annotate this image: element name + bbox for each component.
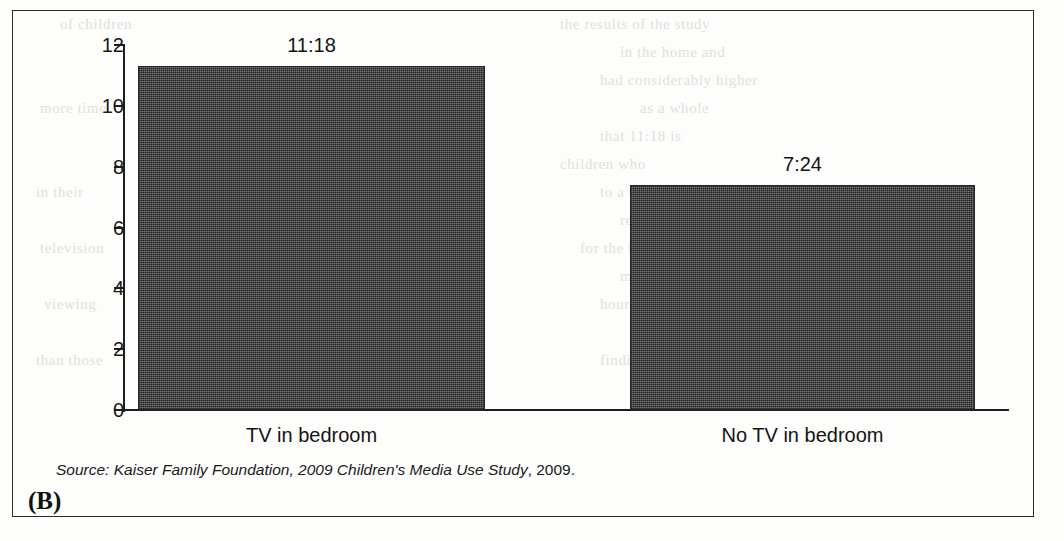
panel-letter: (B): [28, 487, 61, 515]
figure-panel-b: the results of the studyin the home andh…: [0, 0, 1064, 541]
y-axis-tick-label: 10: [84, 94, 124, 117]
y-axis-tick-label: 0: [84, 399, 124, 422]
source-note-italic: Source: Kaiser Family Foundation, 2009 C…: [56, 461, 528, 478]
y-axis-tick-label: 4: [84, 277, 124, 300]
bar: [138, 66, 485, 410]
bar: [630, 185, 975, 410]
y-axis-tick-label: 8: [84, 155, 124, 178]
x-axis-category-label: TV in bedroom: [246, 424, 377, 447]
bar-value-label: 11:18: [287, 34, 336, 57]
source-note-year: , 2009.: [528, 461, 575, 478]
y-axis-tick-label: 2: [84, 338, 124, 361]
source-note: Source: Kaiser Family Foundation, 2009 C…: [56, 461, 575, 479]
y-axis-tick-label: 12: [84, 34, 124, 57]
y-axis-tick-label: 6: [84, 216, 124, 239]
x-axis-category-label: No TV in bedroom: [722, 424, 884, 447]
bar-value-label: 7:24: [783, 153, 822, 176]
bar-chart: 024681012 11:187:24 TV in bedroomNo TV i…: [0, 0, 1064, 541]
